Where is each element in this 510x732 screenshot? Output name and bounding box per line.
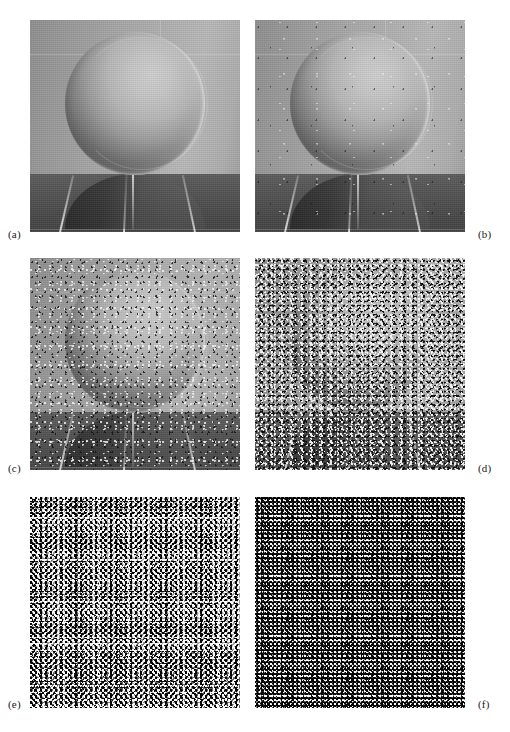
panel-caption-e: (e) — [8, 698, 21, 710]
image-panel-c — [30, 258, 240, 470]
scene-e — [30, 497, 240, 708]
image-panel-b — [255, 20, 465, 232]
image-panel-d — [255, 258, 465, 470]
panel-caption-d: (d) — [478, 462, 491, 474]
sphere-inner-arc — [76, 275, 208, 408]
reflection-grout-seam — [357, 174, 359, 229]
sphere-inner-arc — [76, 514, 208, 647]
panel-caption-c: (c) — [8, 462, 21, 474]
reflection-grout-seam — [132, 174, 134, 229]
sphere-inner-arc — [301, 514, 433, 647]
reflection-grout-seam — [357, 412, 359, 467]
image-panel-e — [30, 497, 240, 708]
grout-line-horizontal — [255, 229, 465, 230]
figure-sheet: (a)(b)(c)(d)(e)(f) — [0, 0, 510, 732]
scene-f — [255, 497, 465, 708]
scene-c — [30, 258, 240, 470]
reflection-grout-seam — [357, 650, 359, 705]
grout-line-horizontal — [255, 467, 465, 468]
reflection-grout-seam — [132, 650, 134, 705]
sphere-inner-arc — [76, 37, 208, 170]
image-panel-f — [255, 497, 465, 708]
panel-caption-f: (f) — [478, 698, 490, 710]
scene-a — [30, 20, 240, 232]
grout-line-horizontal — [30, 229, 240, 230]
sphere-inner-arc — [301, 37, 433, 170]
image-panel-a — [30, 20, 240, 232]
reflection-grout-seam — [132, 412, 134, 467]
panel-caption-a: (a) — [8, 228, 21, 240]
scene-b — [255, 20, 465, 232]
grout-line-horizontal — [30, 467, 240, 468]
sphere-inner-arc — [301, 275, 433, 408]
scene-d — [255, 258, 465, 470]
panel-caption-b: (b) — [478, 228, 491, 240]
